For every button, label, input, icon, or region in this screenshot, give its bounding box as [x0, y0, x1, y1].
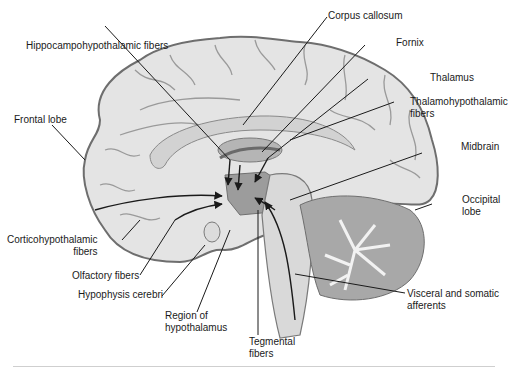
label-thalamus: Thalamus — [430, 72, 474, 84]
label-hippocampohypothalamic-fibers: Hippocampohypothalamic fibers — [26, 40, 168, 52]
label-tegmental-fibers: Tegmentalfibers — [249, 336, 295, 360]
label-corpus-callosum: Corpus callosum — [328, 10, 402, 22]
label-region-of-hypothalamus: Region ofhypothalamus — [165, 310, 227, 334]
label-frontal-lobe: Frontal lobe — [14, 114, 67, 126]
label-fornix: Fornix — [396, 37, 424, 49]
bottom-divider — [13, 366, 495, 367]
hypophysis — [204, 222, 220, 242]
label-visceral-somatic-afferents: Visceral and somaticafferents — [407, 288, 499, 312]
label-corticohypothalamic-fibers: Corticohypothalamicfibers — [7, 234, 98, 258]
label-olfactory-fibers: Olfactory fibers — [72, 270, 139, 282]
label-hypophysis-cerebri: Hypophysis cerebri — [78, 289, 163, 301]
brain-diagram — [0, 0, 511, 372]
label-occipital-lobe: Occipitallobe — [462, 194, 500, 218]
label-midbrain: Midbrain — [461, 141, 499, 153]
brainstem — [262, 174, 313, 338]
label-thalamohypothalamic-fibers: Thalamohypothalamicfibers — [410, 96, 508, 120]
